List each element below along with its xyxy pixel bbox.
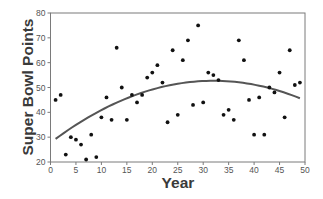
data-point [211,73,215,77]
data-point [84,158,88,162]
y-tick-label: 80 [36,8,46,18]
data-points [54,24,302,162]
data-point [155,63,159,67]
data-point [288,48,292,52]
data-point [54,98,58,102]
data-point [247,98,251,102]
y-tick-label: 70 [36,33,46,43]
x-tick-label: 5 [74,165,79,175]
data-point [161,81,165,85]
data-point [278,71,282,75]
x-tick-label: 50 [300,165,310,175]
data-point [252,133,256,137]
data-point [186,38,190,42]
data-point [125,118,129,122]
data-point [196,24,200,28]
data-point [293,83,297,87]
y-axis: 20304050607080 [36,8,50,167]
trend-line [56,81,300,139]
chart-canvas: 20304050607080 05101520253035404550 Year… [0,0,323,199]
x-tick-label: 40 [249,165,259,175]
x-tick-label: 10 [97,165,107,175]
data-point [267,86,271,90]
data-point [191,103,195,107]
y-tick-label: 60 [36,58,46,68]
data-point [120,86,124,90]
x-tick-label: 45 [275,165,285,175]
data-point [79,143,83,147]
data-point [176,113,180,117]
x-tick-label: 0 [48,165,53,175]
data-point [283,115,287,119]
data-point [135,101,139,105]
data-point [59,93,63,97]
x-tick-label: 35 [224,165,234,175]
data-point [242,58,246,62]
data-point [206,71,210,75]
data-point [298,81,302,85]
y-axis-title: Super Bowl Points [19,19,36,156]
data-point [94,155,98,159]
data-point [262,133,266,137]
data-point [273,91,277,95]
data-point [171,48,175,52]
data-point [181,58,185,62]
x-tick-label: 30 [198,165,208,175]
data-point [115,46,119,50]
data-point [232,118,236,122]
x-axis-title: Year [162,174,195,191]
data-point [105,96,109,100]
data-point [227,108,231,112]
data-point [64,153,68,157]
y-tick-label: 40 [36,107,46,117]
data-point [257,96,261,100]
data-point [110,118,114,122]
y-tick-label: 30 [36,132,46,142]
data-point [237,38,241,42]
x-tick-label: 20 [148,165,158,175]
data-point [145,76,149,80]
data-point [100,115,104,119]
y-tick-label: 20 [36,157,46,167]
data-point [166,120,170,124]
scatter-chart: 20304050607080 05101520253035404550 Year… [0,0,323,199]
data-point [201,101,205,105]
y-tick-label: 50 [36,83,46,93]
data-point [69,135,73,139]
data-point [222,113,226,117]
quadratic-fit-curve [56,81,300,139]
data-point [150,71,154,75]
x-tick-label: 15 [122,165,132,175]
data-point [74,138,78,142]
data-point [140,93,144,97]
data-point [130,93,134,97]
data-point [89,133,93,137]
data-point [217,78,221,82]
